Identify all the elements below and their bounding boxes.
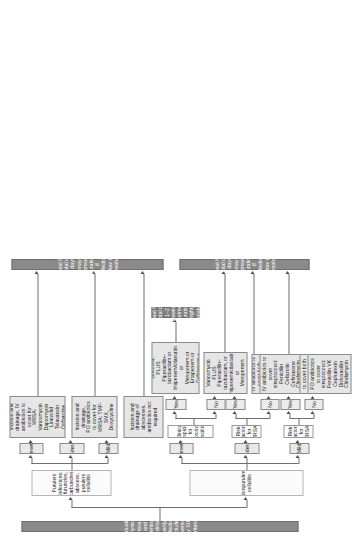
purulent-spine-entry [72, 464, 73, 470]
question-necrotizing-fasciitis: Clinical suspicion for necrotizing fasci… [168, 425, 214, 438]
severity-purulent-mild: Mild [99, 443, 119, 454]
mrsa-mild-arrow-no [311, 411, 315, 414]
purulent-arrow-severe [29, 455, 33, 458]
nonpurulent-arrow-mild-q [296, 440, 300, 443]
mrsa-mild-arrow-yes-tx [287, 396, 291, 399]
trunk-split-vertical [72, 507, 247, 508]
treatment-nonpurulent-mild-no: PO antibiotics to cover streptococci: Pe… [308, 354, 352, 394]
nonpurulent-arrow-severe [179, 455, 183, 458]
treatment-purulent-mild: Incision and drainage of abscesses, anti… [124, 396, 164, 438]
purulent-duration-arrow-severe [35, 271, 39, 274]
mrsa-moderate-arrow-yes-tx [233, 396, 237, 399]
answer-mrsa-mild-yes: Yes [281, 399, 301, 410]
nonpurulent-duration-arrow-mild [286, 271, 290, 274]
answer-mrsa-mild-no: No [305, 399, 324, 410]
flowchart-stage: Evaluation, physical examination, and de… [4, 0, 317, 538]
nonpurulent-spine-entry [247, 464, 248, 470]
branch-label-purulent: Purulent infections: furuncles, carbuncl… [32, 470, 112, 496]
answer-mrsa-moderate-no: No [261, 399, 280, 410]
nonpurulent-arrow-severe-q [179, 440, 183, 443]
necrotizing-arrow-no [213, 411, 217, 414]
necrotizing-split [176, 418, 216, 419]
mrsa-mild-line-no [314, 414, 315, 419]
branch-line-purulent [72, 500, 73, 508]
necrotizing-duration-feed [176, 322, 177, 342]
severity-nonpurulent-severe: Severe [170, 443, 194, 454]
treatment-necrotizing-yes: Vancomycin or Linezolid, PLUS Piperacill… [152, 342, 200, 394]
mrsa-mild-arrow-no-tx [311, 396, 315, 399]
nonpurulent-severity-spine [182, 463, 299, 464]
duration-bar-purulent: Treat for total of 5 days; may increase … [12, 259, 164, 270]
purulent-severity-spine [32, 463, 108, 464]
branch-arrow-nonpurulent [244, 497, 248, 500]
mrsa-mild-split [290, 418, 314, 419]
branch-label-nonpurulent: Nonpurulent cellulitis [190, 470, 304, 496]
mrsa-moderate-split [236, 418, 270, 419]
question-mrsa-moderate: Risk factors for MRSA? [232, 425, 262, 438]
necrotizing-line-no [216, 414, 217, 419]
flowchart-canvas: Evaluation, physical examination, and de… [4, 0, 317, 538]
answer-mrsa-moderate-yes: Yes [226, 399, 246, 410]
mrsa-moderate-split-entry [247, 419, 248, 425]
nonpurulent-line-severe [182, 458, 183, 464]
answer-necrotizing-yes: Yes [166, 399, 187, 410]
necrotizing-arrow-yes [173, 411, 177, 414]
purulent-duration-arrow-mild [141, 271, 145, 274]
nonpurulent-line-mild [299, 458, 300, 464]
mrsa-mild-arrow-yes [287, 411, 291, 414]
mrsa-moderate-arrow-yes [233, 411, 237, 414]
severity-purulent-severe: Severe [20, 443, 44, 454]
answer-necrotizing-no: No [207, 399, 226, 410]
purulent-arrow-moderate [69, 455, 73, 458]
purulent-duration-feed-moderate [95, 274, 96, 396]
mrsa-mild-line-yes [290, 414, 291, 419]
mrsa-moderate-arrow-no [267, 411, 271, 414]
branch-line-nonpurulent [247, 500, 248, 508]
nonpurulent-line-moderate [247, 458, 248, 464]
treatment-necrotizing-no: Vancomycin PLUS Piperacillin–tazobactam,… [204, 352, 248, 394]
purulent-arrow-mild-tx [105, 440, 109, 443]
necrotizing-split-entry [194, 419, 195, 425]
treatment-purulent-severe: Incision and drainage, IV antibiotics to… [10, 396, 66, 438]
mrsa-moderate-line-yes [236, 414, 237, 419]
duration-bar-nonpurulent: Treat for total of 5 days; may increase … [180, 259, 310, 270]
nonpurulent-duration-feed-necro-no [225, 274, 226, 352]
nonpurulent-duration-feed-mild [289, 274, 290, 354]
title-bar: Evaluation, physical examination, and de… [22, 521, 299, 532]
purulent-line-severe [32, 458, 33, 464]
nonpurulent-arrow-mild [296, 455, 300, 458]
trunk-line [160, 508, 161, 521]
question-mrsa-mild: Risk factors for MRSA? [284, 425, 314, 438]
necrotizing-arrow-yes-tx [173, 396, 177, 399]
purulent-duration-feed-severe [38, 274, 39, 396]
treatment-purulent-moderate: Incision and drainage, PO antibiotics to… [72, 396, 118, 438]
branch-arrow-purulent [69, 497, 73, 500]
necrotizing-line-yes [176, 414, 177, 419]
purulent-arrow-mild [105, 455, 109, 458]
necrotizing-arrow-no-tx [213, 396, 217, 399]
treatment-nonpurulent-moderate-no: IV antibiotics to cover streptococci: Pe… [260, 354, 304, 394]
mrsa-moderate-arrow-no-tx [267, 396, 271, 399]
nonpurulent-arrow-moderate-q [244, 440, 248, 443]
severity-nonpurulent-mild: Mild [290, 443, 310, 454]
mrsa-moderate-line-no [270, 414, 271, 419]
purulent-arrow-severe-tx [29, 440, 33, 443]
purulent-duration-feed-mild [144, 274, 145, 396]
duration-bar-necrotizing: Treat for total of 1–2 weeks; treatment … [152, 307, 200, 318]
nonpurulent-duration-feed-moderate [254, 274, 255, 354]
nonpurulent-arrow-moderate [244, 455, 248, 458]
purulent-line-moderate [72, 458, 73, 464]
purulent-line-mild [108, 458, 109, 464]
purulent-arrow-moderate-tx [69, 440, 73, 443]
severity-purulent-moderate: Moderate [60, 443, 85, 454]
mrsa-mild-split-entry [299, 419, 300, 425]
severity-nonpurulent-moderate: Moderate [235, 443, 260, 454]
